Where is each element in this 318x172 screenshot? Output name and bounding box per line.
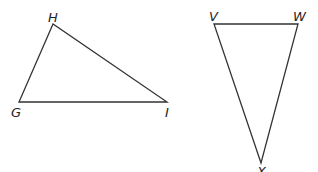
vertex-label-w: W [293,9,307,24]
vertex-label-x: X [256,164,267,172]
triangles-figure: H G I V W X [0,0,318,172]
vertex-label-i: I [165,105,169,120]
vertex-label-g: G [11,105,21,120]
triangle-vwx [214,24,298,163]
diagram-canvas: H G I V W X [0,0,318,172]
triangle-ghi [19,24,167,102]
vertex-label-h: H [48,10,58,25]
vertex-label-v: V [209,9,219,24]
